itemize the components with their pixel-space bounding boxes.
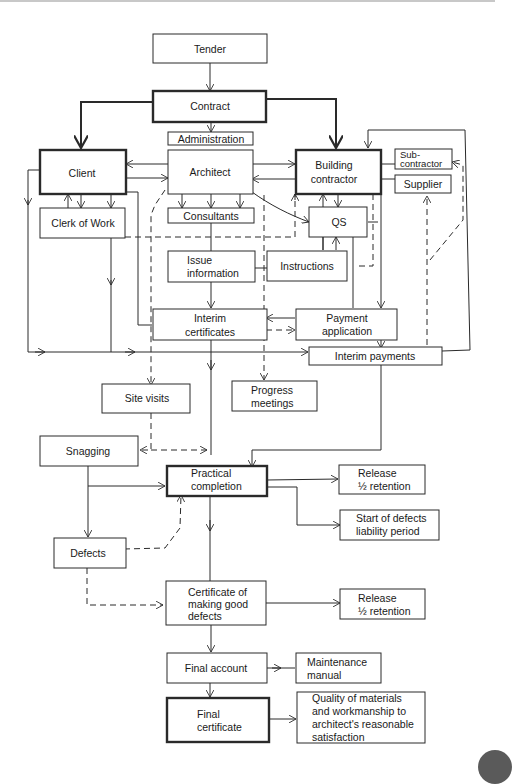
svg-text:and workmanship to: and workmanship to (312, 705, 406, 717)
node-tender: Tender (153, 34, 267, 63)
node-payment-application: Payment application (296, 309, 397, 340)
svg-text:Site visits: Site visits (125, 392, 169, 404)
node-defects: Defects (54, 538, 126, 568)
node-quality-materials: Quality of materials and workmanship to … (297, 692, 425, 743)
node-site-visits: Site visits (102, 384, 190, 413)
node-practical-completion: Practical completion (167, 466, 267, 496)
node-certificate-making-good: Certificate of making good defects (166, 581, 266, 625)
node-building-contractor: Building contractor (296, 150, 381, 194)
svg-text:Certificate of: Certificate of (188, 586, 247, 598)
svg-text:½ retention: ½ retention (358, 605, 411, 617)
node-final-account: Final account (167, 653, 267, 683)
svg-text:Maintenance: Maintenance (307, 656, 367, 668)
svg-text:Building: Building (315, 159, 353, 171)
svg-text:Final account: Final account (185, 662, 248, 674)
svg-text:Issue: Issue (187, 254, 212, 266)
svg-text:Start of defects: Start of defects (356, 512, 427, 524)
page-corner-marker (478, 750, 512, 784)
svg-text:Defects: Defects (70, 547, 106, 559)
svg-text:Instructions: Instructions (280, 260, 334, 272)
svg-text:Progress: Progress (251, 384, 293, 396)
node-snagging: Snagging (40, 436, 138, 466)
node-subcontractor: Sub- contractor (395, 149, 452, 169)
node-issue-information: Issue information (168, 251, 255, 282)
node-instructions: Instructions (267, 251, 347, 281)
node-clerk-of-work: Clerk of Work (40, 208, 125, 238)
node-interim-certificates: Interim certificates (153, 309, 267, 340)
svg-text:information: information (187, 267, 239, 279)
svg-text:Interim: Interim (194, 312, 226, 324)
node-qs: QS (309, 207, 367, 237)
svg-text:Interim payments: Interim payments (335, 350, 416, 362)
node-supplier: Supplier (395, 175, 451, 193)
svg-text:Snagging: Snagging (66, 445, 111, 457)
svg-text:Tender: Tender (194, 43, 227, 55)
svg-text:certificate: certificate (197, 721, 242, 733)
svg-text:certificates: certificates (185, 326, 235, 338)
node-release-retention-2: Release ½ retention (340, 589, 425, 619)
svg-text:completion: completion (191, 480, 242, 492)
svg-text:Practical: Practical (191, 467, 231, 479)
node-start-defects-liability: Start of defects liability period (340, 510, 439, 540)
node-release-retention-1: Release ½ retention (339, 465, 425, 494)
svg-text:Consultants: Consultants (183, 210, 238, 222)
svg-text:Release: Release (358, 592, 397, 604)
svg-text:Supplier: Supplier (404, 178, 443, 190)
node-final-certificate: Final certificate (167, 698, 269, 742)
node-maintenance-manual: Maintenance manual (296, 653, 381, 683)
svg-text:contractor: contractor (311, 173, 358, 185)
svg-text:Final: Final (197, 708, 220, 720)
svg-text:Contract: Contract (190, 100, 230, 112)
svg-text:Client: Client (69, 167, 96, 179)
node-architect: Architect (168, 150, 253, 194)
svg-text:contractor: contractor (400, 158, 442, 169)
node-client: Client (40, 150, 126, 194)
svg-text:½ retention: ½ retention (358, 480, 411, 492)
svg-text:making good: making good (188, 598, 248, 610)
svg-text:Release: Release (358, 467, 397, 479)
svg-text:application: application (322, 325, 372, 337)
svg-text:Administration: Administration (178, 133, 245, 145)
svg-text:defects: defects (188, 610, 222, 622)
svg-text:QS: QS (331, 216, 346, 228)
svg-text:meetings: meetings (251, 397, 294, 409)
node-contract: Contract (153, 91, 266, 122)
svg-text:architect's reasonable: architect's reasonable (312, 718, 414, 730)
svg-text:Quality of materials: Quality of materials (312, 692, 402, 704)
node-administration: Administration (168, 132, 253, 145)
node-progress-meetings: Progress meetings (232, 381, 317, 411)
svg-text:Payment: Payment (326, 312, 368, 324)
svg-text:manual: manual (307, 669, 341, 681)
node-consultants: Consultants (168, 208, 254, 223)
svg-text:liability period: liability period (356, 525, 420, 537)
svg-text:satisfaction: satisfaction (312, 731, 365, 743)
node-interim-payments: Interim payments (309, 347, 442, 365)
svg-text:Clerk of Work: Clerk of Work (51, 217, 115, 229)
svg-text:Architect: Architect (190, 166, 231, 178)
